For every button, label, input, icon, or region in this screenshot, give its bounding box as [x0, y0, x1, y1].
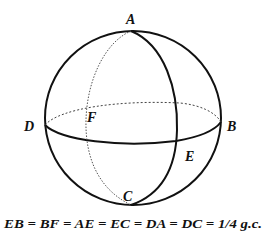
caption-equation: EB = BF = AE = EC = DA = DC = 1/4 g.c. — [3, 216, 262, 231]
sphere-outline — [45, 31, 221, 205]
equator-front — [45, 122, 221, 144]
label-point-c: C — [123, 189, 133, 204]
label-point-f: F — [86, 110, 97, 125]
equator-back-dotted — [45, 102, 221, 125]
meridian-front — [131, 31, 177, 205]
label-point-d: D — [23, 119, 34, 134]
label-point-e: E — [184, 149, 194, 164]
label-point-a: A — [125, 12, 135, 27]
label-point-b: B — [226, 119, 236, 134]
sphere-diagram: A B C D E F EB = BF = AE = EC = DA = DC … — [0, 0, 266, 234]
